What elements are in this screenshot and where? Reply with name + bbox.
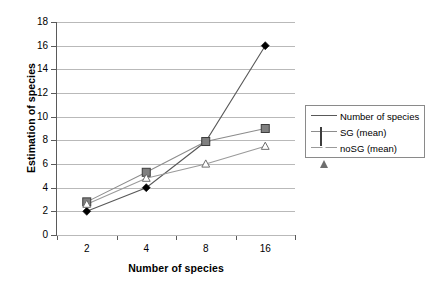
y-tick-mark — [51, 211, 56, 212]
gridline — [57, 69, 295, 70]
y-tick-label: 10 — [10, 112, 48, 122]
legend-label-number-of-species: Number of species — [340, 111, 419, 122]
legend: Number of species SG (mean) noSG (mean) — [305, 105, 425, 158]
y-tick-label: 12 — [10, 88, 48, 98]
triangle-marker-icon — [311, 141, 337, 155]
y-tick-label: 8 — [10, 135, 48, 145]
y-tick-mark — [51, 164, 56, 165]
plot-area — [57, 22, 295, 235]
gridline — [57, 46, 295, 47]
diamond-marker-icon — [311, 109, 337, 123]
legend-entry-sg-mean: SG (mean) — [311, 124, 386, 140]
y-tick-mark — [51, 188, 56, 189]
gridline — [57, 235, 295, 236]
gridline — [57, 22, 295, 23]
square-marker-icon — [311, 125, 337, 139]
x-tick-label: 2 — [67, 244, 107, 254]
gridline — [57, 140, 295, 141]
y-tick-label: 0 — [10, 230, 48, 240]
y-tick-label: 16 — [10, 41, 48, 51]
legend-entry-number-of-species: Number of species — [311, 108, 419, 124]
y-tick-mark — [51, 140, 56, 141]
y-tick-mark — [51, 69, 56, 70]
x-axis-title: Number of species — [57, 262, 295, 274]
y-tick-mark — [51, 46, 56, 47]
y-tick-label: 18 — [10, 17, 48, 27]
legend-label-nosg-mean: noSG (mean) — [340, 143, 397, 154]
legend-label-sg-mean: SG (mean) — [340, 127, 386, 138]
y-tick-mark — [51, 117, 56, 118]
x-tick-label: 16 — [245, 244, 285, 254]
y-tick-label: 14 — [10, 64, 48, 74]
line-chart: Estimation of species Number of species … — [0, 0, 432, 285]
y-tick-mark — [51, 93, 56, 94]
y-tick-mark — [51, 235, 56, 236]
y-tick-mark — [51, 22, 56, 23]
x-tick-mark — [295, 235, 296, 240]
gridline — [57, 211, 295, 212]
legend-entry-nosg-mean: noSG (mean) — [311, 140, 397, 156]
gridline — [57, 93, 295, 94]
y-tick-label: 2 — [10, 206, 48, 216]
x-tick-label: 8 — [186, 244, 226, 254]
gridline — [57, 188, 295, 189]
y-tick-label: 4 — [10, 183, 48, 193]
x-tick-label: 4 — [126, 244, 166, 254]
y-tick-label: 6 — [10, 159, 48, 169]
gridline — [57, 117, 295, 118]
gridline — [57, 164, 295, 165]
